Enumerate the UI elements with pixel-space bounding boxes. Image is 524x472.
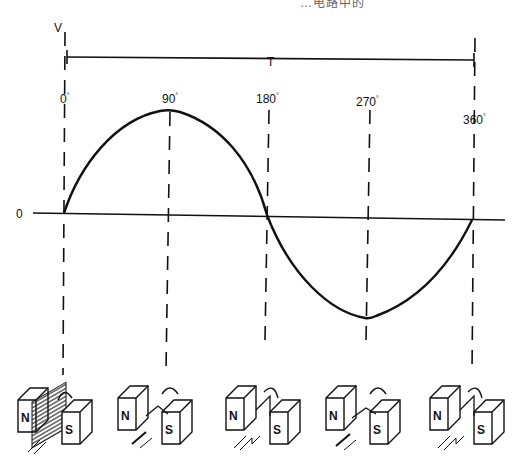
sine-wave-diagram: V 0 T 0° 90° 180° 270° 360° N S N S (0, 0, 524, 472)
rotation-arrow-icon (264, 388, 278, 398)
svg-text:S: S (273, 423, 281, 437)
dashed-line-0 (63, 32, 65, 375)
dashed-line-270 (366, 110, 370, 342)
rotation-arrow-icon (370, 388, 386, 394)
svg-text:S: S (477, 423, 485, 437)
svg-text:N: N (329, 409, 338, 423)
magnet-pair-180deg: N S (226, 386, 300, 450)
rotation-arrow-icon (162, 388, 178, 394)
y-axis-label: V (54, 21, 62, 35)
angle-label-90: 90° (162, 92, 178, 106)
svg-text:S: S (373, 423, 381, 437)
period-label: T (267, 55, 275, 69)
magnet-pair-0deg: N S (18, 382, 92, 454)
dashed-line-180 (265, 110, 269, 340)
angle-label-360: 360° (463, 113, 486, 127)
svg-text:N: N (21, 411, 30, 425)
dashed-line-90 (166, 112, 170, 370)
svg-text:S: S (165, 423, 173, 437)
rotation-arrow-icon (468, 388, 482, 398)
svg-text:N: N (433, 409, 442, 423)
zero-label: 0 (16, 207, 23, 221)
dashed-line-360 (472, 38, 475, 372)
magnet-pair-90deg: N S (118, 386, 192, 448)
angle-label-270: 270° (356, 95, 379, 109)
magnet-pair-360deg: N S (430, 386, 504, 450)
svg-text:N: N (121, 409, 130, 423)
svg-text:N: N (229, 409, 238, 423)
svg-text:S: S (65, 423, 73, 437)
angle-label-0: 0° (60, 92, 70, 106)
magnet-pair-270deg: N S (326, 386, 400, 450)
angle-label-180: 180° (256, 92, 279, 106)
